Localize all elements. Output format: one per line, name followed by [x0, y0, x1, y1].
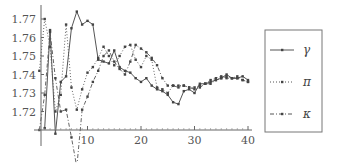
data-point	[204, 83, 206, 85]
data-point	[188, 86, 190, 88]
data-point	[92, 66, 94, 68]
data-point	[70, 86, 72, 88]
legend-marker-icon	[281, 81, 283, 83]
data-point	[129, 44, 131, 46]
data-point	[177, 103, 179, 105]
data-point	[113, 49, 115, 51]
data-point	[241, 75, 243, 77]
data-point	[241, 79, 243, 81]
y-ticks: 1.721.731.741.751.761.77	[12, 13, 45, 119]
data-point	[193, 92, 195, 94]
data-point	[97, 70, 99, 72]
data-point	[81, 23, 83, 25]
legend-label: π	[302, 75, 312, 89]
data-point	[65, 108, 67, 110]
x-tick-label: 10	[81, 134, 95, 147]
data-point	[86, 20, 88, 22]
data-point	[209, 83, 211, 85]
data-point	[44, 94, 46, 96]
data-point	[167, 92, 169, 94]
data-point	[65, 75, 67, 77]
line-chart: 1.721.731.741.751.761.77 10203040 γπκ	[0, 0, 337, 163]
x-tick-label: 20	[134, 134, 148, 147]
data-point	[172, 101, 174, 103]
legend: γπκ	[265, 30, 322, 132]
data-point	[102, 46, 104, 48]
data-point	[118, 55, 120, 57]
data-point	[145, 77, 147, 79]
data-point	[54, 110, 56, 112]
data-point	[247, 81, 249, 83]
y-tick-label: 1.75	[12, 50, 37, 63]
data-point	[60, 110, 62, 112]
data-point	[76, 10, 78, 12]
data-point	[129, 71, 131, 73]
data-point	[92, 23, 94, 25]
data-point	[81, 108, 83, 110]
data-point	[54, 77, 56, 79]
data-point	[215, 79, 217, 81]
data-point	[156, 86, 158, 88]
legend-box	[265, 30, 322, 132]
data-point	[134, 59, 136, 61]
y-tick-label: 1.74	[12, 69, 37, 82]
data-point	[108, 49, 110, 51]
data-point	[220, 77, 222, 79]
data-point	[134, 44, 136, 46]
data-point	[97, 57, 99, 59]
data-point	[108, 62, 110, 64]
data-point	[124, 73, 126, 75]
data-point	[140, 47, 142, 49]
series-1	[38, 18, 249, 113]
y-tick-label: 1.73	[12, 87, 37, 100]
data-point	[54, 133, 56, 135]
x-tick-label: 40	[241, 134, 255, 147]
data-point	[76, 108, 78, 110]
y-tick-label: 1.76	[12, 32, 37, 45]
data-point	[102, 55, 104, 57]
data-point	[167, 84, 169, 86]
data-point	[236, 77, 238, 79]
data-point	[92, 81, 94, 83]
x-tick-label: 30	[188, 134, 202, 147]
y-tick-label: 1.72	[12, 106, 37, 119]
data-point	[151, 84, 153, 86]
series-line	[45, 12, 248, 134]
legend-label: κ	[302, 107, 311, 121]
legend-label: γ	[303, 43, 311, 57]
series-0	[44, 10, 250, 134]
data-point	[209, 79, 211, 81]
data-point	[124, 46, 126, 48]
data-point	[193, 88, 195, 90]
data-point	[102, 60, 104, 62]
data-point	[161, 88, 163, 90]
data-point	[118, 68, 120, 70]
data-point	[70, 27, 72, 29]
data-point	[156, 64, 158, 66]
data-point	[225, 75, 227, 77]
legend-marker-icon	[281, 49, 283, 51]
data-point	[108, 55, 110, 57]
data-point	[113, 64, 115, 66]
data-point	[231, 77, 233, 79]
data-point	[86, 96, 88, 98]
legend-marker-icon	[281, 113, 283, 115]
data-point	[86, 71, 88, 73]
data-point	[38, 70, 40, 72]
data-point	[129, 60, 131, 62]
data-point	[151, 57, 153, 59]
data-point	[81, 88, 83, 90]
data-point	[134, 77, 136, 79]
data-point	[183, 90, 185, 92]
data-point	[183, 84, 185, 86]
data-point	[199, 86, 201, 88]
data-point	[177, 86, 179, 88]
data-point	[161, 77, 163, 79]
data-point	[140, 66, 142, 68]
data-point	[145, 55, 147, 57]
data-point	[65, 23, 67, 25]
data-point	[70, 136, 72, 138]
data-point	[140, 81, 142, 83]
data-point	[172, 84, 174, 86]
data-point	[49, 31, 51, 33]
